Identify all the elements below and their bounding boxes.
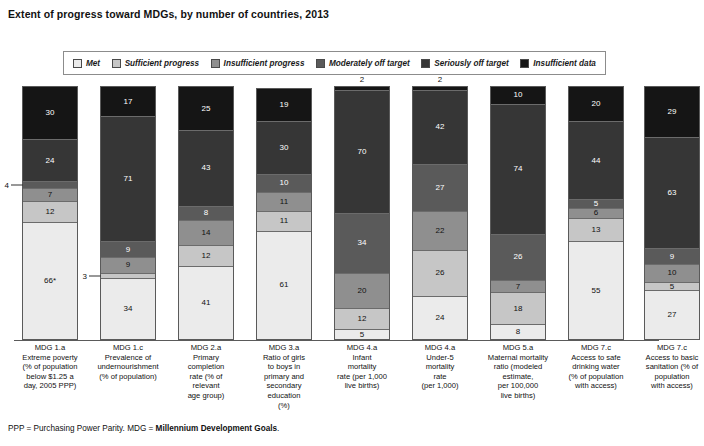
bar-segment-met[interactable]: 24	[413, 297, 467, 339]
bar-segment-seriously-off-target[interactable]: 24	[23, 140, 77, 182]
bar-segment-sufficient-progress[interactable]: 26	[413, 251, 467, 297]
bar-segment-seriously-off-target[interactable]: 74	[491, 105, 545, 235]
bar-segment-sufficient-progress[interactable]: 12	[23, 202, 77, 223]
bar-segment-moderately-off-target[interactable]: 34	[335, 214, 389, 274]
segment-value: 18	[514, 305, 523, 313]
bar-segment-insufficient-data[interactable]: 10	[491, 87, 545, 105]
bar-group-mdg-7c-sanitation[interactable]: 2963910527	[644, 86, 700, 340]
stacked-bar[interactable]: 1074267188	[490, 86, 546, 340]
bar-segment-insufficient-progress[interactable]: 7	[23, 189, 77, 201]
segment-value: 10	[280, 179, 289, 187]
category-label-line: (per 1,000)	[403, 381, 477, 391]
category-label-line: age group)	[169, 391, 243, 401]
bar-segment-insufficient-progress[interactable]: 20	[335, 274, 389, 309]
bar-segment-seriously-off-target[interactable]: 42	[413, 91, 467, 165]
bar-segment-sufficient-progress[interactable]: 12	[335, 309, 389, 330]
bar-segment-seriously-off-target[interactable]: 30	[257, 122, 311, 175]
legend-label: Insufficient progress	[224, 59, 305, 68]
bar-segment-met[interactable]: 8	[491, 325, 545, 339]
segment-value: 44	[592, 157, 601, 165]
legend-item-seriously-off-target[interactable]: Seriously off target	[421, 59, 508, 68]
segment-value: 10	[514, 91, 523, 99]
bar-segment-met[interactable]: 66*	[23, 223, 77, 339]
category-label-line: sanitation (% of	[635, 362, 704, 372]
bar-segment-seriously-off-target[interactable]: 63	[645, 138, 699, 249]
category-label-line: with access)	[559, 381, 633, 391]
bar-segment-insufficient-progress[interactable]: 11	[257, 193, 311, 212]
bar-segment-sufficient-progress[interactable]: 5	[645, 283, 699, 292]
bar-segment-met[interactable]: 55	[569, 242, 623, 339]
bar-segment-insufficient-data[interactable]: 29	[645, 87, 699, 138]
stacked-bar[interactable]: 703420125	[334, 86, 390, 340]
segment-value-callout: 3	[83, 271, 101, 280]
segment-value: 74	[514, 165, 523, 173]
bar-segment-insufficient-data[interactable]: 20	[569, 87, 623, 122]
bar-segment-moderately-off-target[interactable]: 9	[645, 249, 699, 265]
bar-group-mdg-5a[interactable]: 1074267188	[490, 86, 546, 340]
bar-segment-insufficient-progress[interactable]: 7	[491, 281, 545, 293]
bar-group-mdg-1c[interactable]: 177199334	[100, 86, 156, 340]
category-label-line: ratio (modeled	[481, 362, 555, 372]
category-label-line: Access to safe	[559, 353, 633, 363]
bar-segment-seriously-off-target[interactable]: 71	[101, 117, 155, 242]
legend-item-insufficient-data[interactable]: Insufficient data	[520, 59, 596, 68]
segment-value: 70	[358, 148, 367, 156]
legend-item-insufficient-progress[interactable]: Insufficient progress	[211, 59, 305, 68]
bar-segment-moderately-off-target[interactable]: 5	[569, 200, 623, 209]
bar-segment-sufficient-progress[interactable]: 18	[491, 293, 545, 325]
stacked-bar[interactable]: 3024471266*	[22, 86, 78, 340]
bar-segment-met[interactable]: 41	[179, 267, 233, 339]
segment-value: 6	[594, 209, 598, 217]
bar-segment-moderately-off-target[interactable]: 26	[491, 235, 545, 281]
bar-group-mdg-7c-water[interactable]: 2044561355	[568, 86, 624, 340]
bar-group-mdg-1a[interactable]: 3024471266*	[22, 86, 78, 340]
legend-label: Moderately off target	[329, 59, 410, 68]
bar-segment-insufficient-data[interactable]: 30	[23, 87, 77, 140]
stacked-bar[interactable]: 193010111161	[256, 88, 312, 340]
category-label-line: Prevalence of	[91, 353, 165, 363]
stacked-bar[interactable]: 4227222624	[412, 86, 468, 340]
category-label-mdg-4a-infant: MDG 4.aInfantmortalityrate (per 1,000liv…	[325, 343, 399, 391]
bar-group-mdg-4a-infant[interactable]: 2703420125	[334, 86, 390, 340]
bar-segment-insufficient-progress[interactable]: 9	[101, 258, 155, 274]
legend-item-sufficient-progress[interactable]: Sufficient progress	[112, 59, 199, 68]
category-label-mdg-4a-under5: MDG 4.aUnder-5mortalityrate(per 1,000)	[403, 343, 477, 391]
bar-segment-moderately-off-target[interactable]: 10	[257, 175, 311, 193]
bar-segment-insufficient-progress[interactable]: 6	[569, 209, 623, 220]
bar-segment-insufficient-data[interactable]: 17	[101, 87, 155, 117]
bar-segment-met[interactable]: 5	[335, 330, 389, 339]
bar-group-mdg-3a[interactable]: 193010111161	[256, 88, 312, 340]
category-label-line: mortality	[325, 362, 399, 372]
bar-segment-insufficient-progress[interactable]: 10	[645, 265, 699, 283]
bar-segment-sufficient-progress[interactable]: 11	[257, 212, 311, 231]
bar-group-mdg-2a[interactable]: 25438141241	[178, 86, 234, 340]
stacked-bar[interactable]: 2044561355	[568, 86, 624, 340]
bar-segment-seriously-off-target[interactable]: 44	[569, 122, 623, 200]
bar-segment-moderately-off-target[interactable]: 8	[179, 207, 233, 221]
bar-segment-met[interactable]: 61	[257, 232, 311, 339]
legend-item-met[interactable]: Met	[73, 59, 100, 68]
bar-segment-met[interactable]: 27	[645, 291, 699, 339]
bar-group-mdg-4a-under5[interactable]: 24227222624	[412, 86, 468, 340]
bar-segment-sufficient-progress[interactable]: 12	[179, 246, 233, 267]
segment-value: 20	[358, 287, 367, 295]
bar-segment-moderately-off-target[interactable]: 4	[23, 182, 77, 189]
bar-segment-moderately-off-target[interactable]: 27	[413, 165, 467, 213]
bar-segment-insufficient-data[interactable]: 25	[179, 87, 233, 131]
stacked-bar[interactable]: 2963910527	[644, 86, 700, 340]
bar-segment-insufficient-progress[interactable]: 22	[413, 212, 467, 251]
category-label-line: to boys in	[247, 362, 321, 372]
bar-above-label: 2	[334, 75, 390, 86]
category-label-line: population	[635, 372, 704, 382]
bar-segment-insufficient-data[interactable]: 19	[257, 89, 311, 122]
stacked-bar[interactable]: 25438141241	[178, 86, 234, 340]
bar-segment-met[interactable]: 34	[101, 279, 155, 339]
legend-item-moderately-off-target[interactable]: Moderately off target	[316, 59, 410, 68]
bar-segment-seriously-off-target[interactable]: 70	[335, 91, 389, 214]
bar-segment-moderately-off-target[interactable]: 9	[101, 242, 155, 258]
segment-value: 25	[202, 105, 211, 113]
stacked-bar[interactable]: 177199334	[100, 86, 156, 340]
bar-segment-sufficient-progress[interactable]: 13	[569, 219, 623, 242]
bar-segment-seriously-off-target[interactable]: 43	[179, 131, 233, 207]
bar-segment-insufficient-progress[interactable]: 14	[179, 221, 233, 246]
